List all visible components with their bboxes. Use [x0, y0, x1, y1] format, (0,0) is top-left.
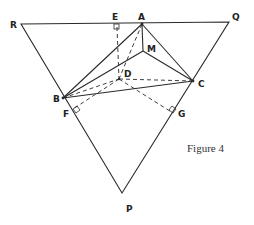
point-d-dot	[118, 78, 120, 80]
figure-caption: Figure 4	[187, 142, 224, 154]
label-c: C	[198, 79, 205, 89]
segment-ab	[63, 24, 142, 98]
label-m: M	[147, 44, 156, 54]
label-p: P	[126, 204, 133, 214]
segment-dc	[119, 79, 193, 81]
segment-dg	[119, 79, 173, 113]
point-a-dot	[141, 23, 144, 26]
right-angle-mark-e	[114, 24, 119, 29]
label-d: D	[124, 69, 131, 79]
geometry-diagram: R Q E A M D C B F G P Figure 4	[0, 0, 254, 225]
triangle-pqr	[21, 22, 229, 193]
segment-bc	[63, 81, 193, 98]
segment-mc	[143, 51, 193, 81]
segment-ed	[117, 27, 119, 79]
label-f: F	[63, 109, 69, 119]
label-e: E	[112, 12, 118, 22]
label-q: Q	[232, 12, 240, 22]
label-g: G	[178, 109, 185, 119]
label-r: R	[10, 20, 17, 30]
label-b: B	[53, 94, 60, 104]
label-a: A	[138, 12, 145, 22]
point-b-dot	[62, 97, 65, 100]
point-c-dot	[192, 80, 195, 83]
segment-am	[142, 24, 143, 51]
